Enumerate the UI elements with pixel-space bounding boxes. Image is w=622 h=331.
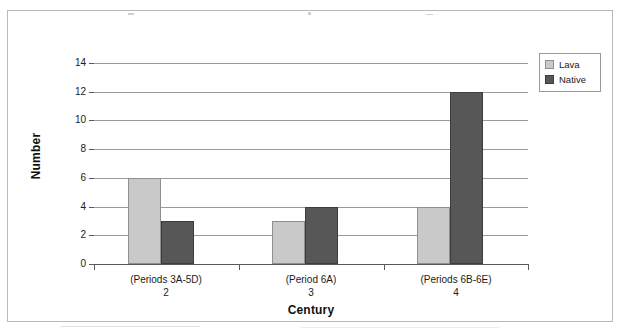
x-category-number: 3: [236, 286, 386, 299]
x-axis-line: [94, 264, 529, 265]
x-tick-mark: [528, 265, 529, 270]
bar-lava-century-3[interactable]: [272, 221, 305, 264]
y-tick-10: 10: [64, 115, 86, 125]
y-tick-4: 4: [64, 202, 86, 212]
y-axis-title: Number: [29, 106, 43, 206]
scan-artifact: [426, 14, 433, 15]
gridline-14: [94, 63, 528, 64]
bar-native-century-2[interactable]: [161, 221, 194, 264]
y-tick-2: 2: [64, 230, 86, 240]
bar-native-century-3[interactable]: [305, 207, 338, 264]
legend-label-native: Native: [559, 75, 586, 85]
bar-native-century-4[interactable]: [450, 92, 483, 264]
y-tick-6: 6: [64, 173, 86, 183]
chart-legend: Lava Native: [539, 53, 601, 92]
x-category-number: 2: [91, 286, 241, 299]
x-tick-mark: [384, 265, 385, 270]
x-category-number: 4: [381, 286, 531, 299]
x-category-label-century-3: (Period 6A) 3: [236, 273, 386, 299]
x-category-label-century-2: (Periods 3A-5D) 2: [91, 273, 241, 299]
x-tick-mark: [239, 265, 240, 270]
y-tick-12: 12: [64, 87, 86, 97]
scan-artifact: [60, 326, 200, 327]
bar-lava-century-4[interactable]: [417, 207, 450, 264]
legend-swatch-icon-lava: [545, 60, 554, 69]
bar-lava-century-2[interactable]: [128, 178, 161, 264]
scan-artifact: [308, 12, 311, 15]
y-tick-8: 8: [64, 144, 86, 154]
x-category-period: (Periods 3A-5D): [91, 273, 241, 286]
legend-item-native[interactable]: Native: [545, 73, 595, 86]
scan-artifact: [300, 327, 500, 328]
legend-item-lava[interactable]: Lava: [545, 58, 595, 71]
x-category-label-century-4: (Periods 6B-6E) 4: [381, 273, 531, 299]
x-axis-title: Century: [94, 303, 528, 317]
legend-swatch-icon-native: [545, 75, 554, 84]
y-tick-0: 0: [64, 259, 86, 269]
legend-label-lava: Lava: [559, 60, 580, 70]
figure-frame: Number 14 12 10 8 6 4 2 0: [7, 10, 613, 322]
x-tick-mark: [94, 265, 95, 270]
x-category-period: (Periods 6B-6E): [381, 273, 531, 286]
plot-area: [94, 63, 528, 264]
scan-artifact: [128, 13, 134, 15]
x-category-period: (Period 6A): [236, 273, 386, 286]
y-tick-14: 14: [64, 58, 86, 68]
